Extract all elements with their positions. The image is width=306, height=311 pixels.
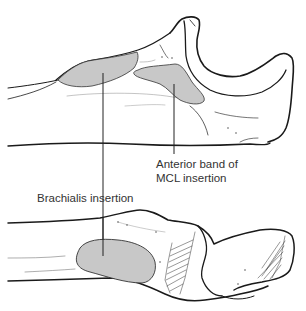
- upper-ulna-view: [8, 17, 294, 146]
- mcl-insertion-label: Anterior band of MCL insertion: [156, 157, 238, 185]
- brachialis-insertion-label: Brachialis insertion: [37, 191, 134, 205]
- mcl-insertion: [134, 64, 205, 104]
- brachialis-insertion-lower: [76, 239, 155, 283]
- brachialis-insertion-upper: [58, 52, 138, 87]
- ulna-illustration: [0, 0, 306, 311]
- mcl-label-line2: MCL insertion: [156, 171, 238, 185]
- mcl-label-line1: Anterior band of: [156, 157, 238, 171]
- anatomy-figure: Anterior band of MCL insertion Brachiali…: [0, 0, 306, 311]
